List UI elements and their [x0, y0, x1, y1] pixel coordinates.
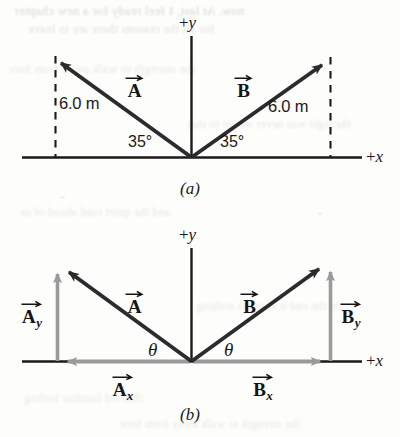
vector-arrow-icon [340, 300, 362, 307]
vector-letter: A [113, 380, 127, 399]
vector-arrow-icon [252, 373, 274, 380]
vector-diagram-svg [0, 0, 400, 437]
panel-b-label-Ay: Ay [21, 300, 43, 329]
panel-b-label-B: B [240, 290, 259, 316]
vector-subscript: y [355, 316, 361, 329]
panel-a-label-B: B [234, 74, 253, 100]
panel-b-label-By: By [340, 300, 362, 329]
vector-letter: B [237, 81, 250, 100]
panel-a-caption: (a) [180, 180, 200, 197]
panel-a-x-axis-label: +x [366, 148, 383, 165]
vector-letter: A [128, 297, 142, 316]
panel-a-magnitude-B: 6.0 m [268, 98, 308, 115]
vector-arrow-icon [112, 373, 134, 380]
panel-b-label-Bx: Bx [252, 373, 274, 402]
vector-letter: B [342, 307, 355, 326]
vector-arrow-icon [125, 290, 144, 297]
panel-b-caption: (b) [180, 406, 200, 423]
vector-letter: B [253, 380, 266, 399]
vector-subscript: y [36, 316, 42, 329]
panel-b-y-axis-label: +y [179, 226, 196, 243]
panel-b-angle-B: θ [224, 340, 233, 359]
panel-b-label-A: A [125, 290, 144, 316]
figure-root: now. At last, I feel ready for a new cha… [0, 0, 400, 437]
vector-arrow-icon [240, 290, 259, 297]
vector-letter: A [22, 307, 36, 326]
panel-a-angle-B: 35° [220, 134, 244, 150]
vector-arrow-icon [21, 300, 43, 307]
panel-a-label-A: A [125, 74, 144, 100]
vector-letter: B [243, 297, 256, 316]
panel-b-label-Ax: Ax [112, 373, 134, 402]
panel-a-angle-A: 35° [128, 134, 152, 150]
panel-b [22, 248, 362, 362]
vector-subscript: x [266, 389, 273, 402]
panel-a-y-axis-label: +y [179, 14, 196, 31]
panel-b-angle-A: θ [148, 340, 157, 359]
panel-a-magnitude-A: 6.0 m [59, 95, 99, 112]
vector-arrow-icon [234, 74, 253, 81]
vector-letter: A [128, 81, 142, 100]
vector-subscript: x [127, 389, 134, 402]
panel-b-x-axis-label: +x [366, 352, 383, 369]
vector-arrow-icon [125, 74, 144, 81]
